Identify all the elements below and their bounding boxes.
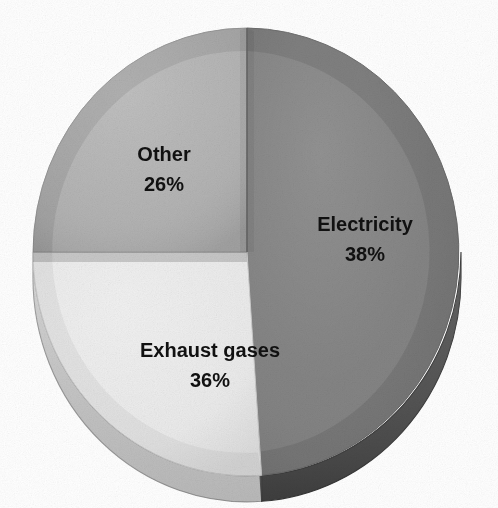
pie-slice-other-base-shadow	[33, 252, 247, 262]
pie-slice-exhaust-gases[interactable]	[33, 252, 262, 476]
pie-chart-figure: Electricity 38% Exhaust gases 36% Other …	[0, 0, 498, 508]
pie-top-face	[33, 28, 459, 476]
slice-label-exhaust-gases-name: Exhaust gases	[140, 339, 280, 361]
slice-label-exhaust-gases-value: 36%	[190, 369, 230, 391]
slice-label-electricity-value: 38%	[345, 243, 385, 265]
slice-label-other-name: Other	[137, 143, 191, 165]
pie-chart-canvas: Electricity 38% Exhaust gases 36% Other …	[0, 0, 498, 508]
slice-label-other-value: 26%	[144, 173, 184, 195]
slice-label-electricity-name: Electricity	[317, 213, 413, 235]
